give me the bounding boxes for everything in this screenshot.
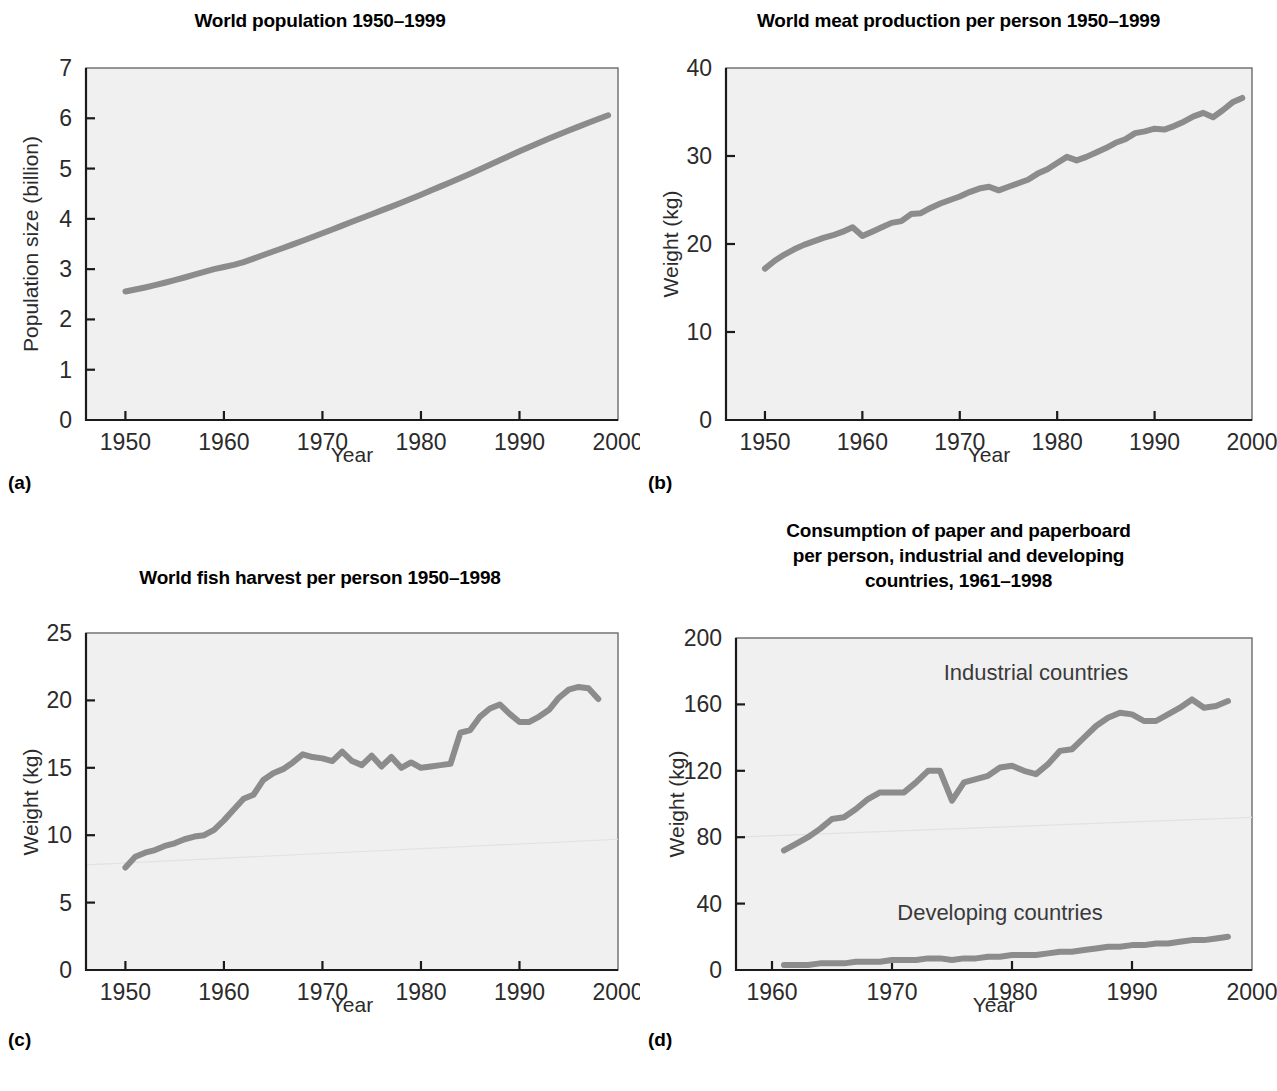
y-tick-label: 0 — [699, 407, 712, 433]
x-tick-label: 1980 — [395, 979, 446, 1005]
series-annotation: Developing countries — [897, 900, 1102, 925]
y-tick-label: 20 — [686, 231, 712, 257]
panel-d: Consumption of paper and paperboard per … — [640, 540, 1277, 1091]
y-tick-label: 5 — [59, 890, 72, 916]
y-tick-label: 15 — [46, 755, 72, 781]
y-tick-label: 2 — [59, 306, 72, 332]
x-tick-label: 1990 — [1106, 979, 1157, 1005]
x-tick-label: 2000 — [592, 429, 640, 455]
y-tick-label: 0 — [59, 407, 72, 433]
panel-d-letter: (d) — [648, 1029, 672, 1051]
y-tick-label: 10 — [46, 822, 72, 848]
y-tick-label: 7 — [59, 55, 72, 81]
x-tick-label: 2000 — [592, 979, 640, 1005]
chart-d: 0408012016020019601970198019902000Indust… — [640, 540, 1277, 1091]
x-axis-title: Year — [331, 993, 373, 1016]
y-tick-label: 5 — [59, 156, 72, 182]
x-tick-label: 1960 — [837, 429, 888, 455]
y-tick-label: 10 — [686, 319, 712, 345]
panel-b-letter: (b) — [648, 472, 672, 494]
y-tick-label: 6 — [59, 105, 72, 131]
x-tick-label: 2000 — [1226, 429, 1277, 455]
y-tick-label: 200 — [684, 625, 722, 651]
y-tick-label: 4 — [59, 206, 72, 232]
x-tick-label: 1960 — [198, 429, 249, 455]
y-tick-label: 40 — [696, 891, 722, 917]
chart-b: 010203040195019601970198019902000YearWei… — [640, 0, 1277, 500]
x-tick-label: 2000 — [1226, 979, 1277, 1005]
panel-c-letter: (c) — [8, 1029, 31, 1051]
y-tick-label: 0 — [59, 957, 72, 983]
x-tick-label: 1960 — [198, 979, 249, 1005]
y-tick-label: 160 — [684, 691, 722, 717]
panel-a-letter: (a) — [8, 472, 31, 494]
y-axis-title: Weight (kg) — [19, 749, 42, 856]
x-tick-label: 1960 — [746, 979, 797, 1005]
panel-b: World meat production per person 1950–19… — [640, 0, 1277, 540]
x-tick-label: 1990 — [494, 429, 545, 455]
y-tick-label: 0 — [709, 957, 722, 983]
x-axis-title: Year — [968, 443, 1010, 466]
y-axis-title: Population size (billion) — [19, 136, 42, 352]
y-axis-title: Weight (kg) — [659, 191, 682, 298]
chart-a: 01234567195019601970198019902000YearPopu… — [0, 0, 640, 500]
x-tick-label: 1990 — [1129, 429, 1180, 455]
x-tick-label: 1950 — [100, 429, 151, 455]
y-tick-label: 20 — [46, 687, 72, 713]
y-tick-label: 30 — [686, 143, 712, 169]
y-tick-label: 120 — [684, 758, 722, 784]
y-tick-label: 1 — [59, 357, 72, 383]
x-tick-label: 1950 — [100, 979, 151, 1005]
x-tick-label: 1980 — [1032, 429, 1083, 455]
y-axis-title: Weight (kg) — [665, 751, 688, 858]
x-tick-label: 1970 — [866, 979, 917, 1005]
y-tick-label: 25 — [46, 620, 72, 646]
x-axis-title: Year — [331, 443, 373, 466]
x-tick-label: 1990 — [494, 979, 545, 1005]
x-tick-label: 1950 — [739, 429, 790, 455]
panel-a: World population 1950–1999 0123456719501… — [0, 0, 640, 540]
x-axis-title: Year — [973, 993, 1015, 1016]
y-tick-label: 80 — [696, 824, 722, 850]
y-tick-label: 40 — [686, 55, 712, 81]
series-annotation: Industrial countries — [944, 660, 1129, 685]
chart-c: 0510152025195019601970198019902000YearWe… — [0, 540, 640, 1091]
panel-c: World fish harvest per person 1950–1998 … — [0, 540, 640, 1091]
x-tick-label: 1980 — [395, 429, 446, 455]
y-tick-label: 3 — [59, 256, 72, 282]
figure-grid: World population 1950–1999 0123456719501… — [0, 0, 1277, 1091]
